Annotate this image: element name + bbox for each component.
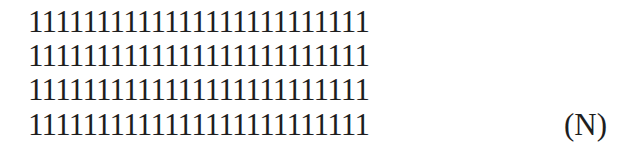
digit-row-3: 1111111111111111111111111 <box>28 74 369 105</box>
equation-label: (N) <box>564 109 607 140</box>
digit-row-4: 1111111111111111111111111 <box>28 109 369 140</box>
digit-row-2: 1111111111111111111111111 <box>28 40 369 71</box>
digit-row-1: 1111111111111111111111111 <box>28 6 369 37</box>
